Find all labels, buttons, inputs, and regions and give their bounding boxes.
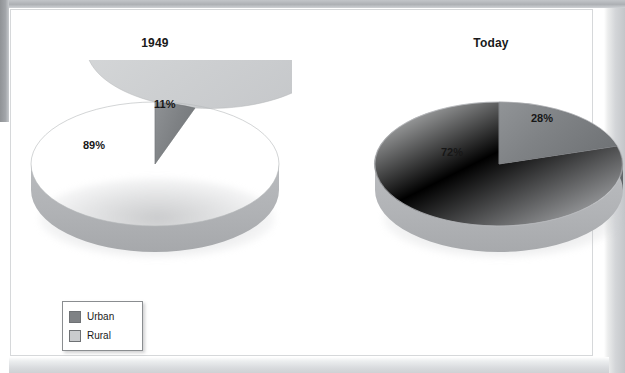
scan-edge-bottom bbox=[9, 357, 609, 373]
slice-value-urban-today: 28% bbox=[531, 112, 553, 124]
chart-title-1949: 1949 bbox=[95, 36, 215, 50]
slice-value-rural-1949: 89% bbox=[83, 139, 105, 151]
pie-chart-today: 28% 72% bbox=[361, 60, 625, 260]
pie-chart-1949-graphic bbox=[17, 60, 292, 260]
legend-item-rural: Rural bbox=[69, 326, 136, 345]
pie-chart-today-graphic bbox=[361, 60, 625, 260]
chart-title-today: Today bbox=[431, 36, 551, 50]
legend-item-urban: Urban bbox=[69, 307, 136, 326]
pie-slice-urban-1949 bbox=[155, 102, 195, 164]
scanned-page-frame: 1949 bbox=[0, 0, 625, 373]
scan-edge-left bbox=[0, 0, 9, 122]
legend-swatch-urban-icon bbox=[69, 311, 81, 323]
legend-swatch-rural-icon bbox=[69, 330, 81, 342]
figure-page-sheet: 1949 bbox=[10, 9, 593, 356]
slice-value-urban-1949: 11% bbox=[154, 98, 175, 110]
legend-label-urban: Urban bbox=[87, 312, 114, 322]
slice-value-rural-today: 72% bbox=[441, 146, 463, 158]
chart-legend: Urban Rural bbox=[62, 301, 143, 351]
scan-edge-top bbox=[0, 0, 625, 8]
legend-label-rural: Rural bbox=[87, 331, 111, 341]
pie-chart-1949: 11% 89% bbox=[17, 60, 292, 260]
